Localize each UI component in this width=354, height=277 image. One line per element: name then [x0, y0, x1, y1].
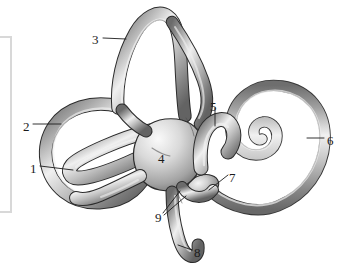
label-8: 8 — [194, 246, 201, 259]
inner-ear-figure: 1 2 3 4 5 6 7 8 9 — [0, 0, 354, 277]
label-9: 9 — [155, 211, 162, 224]
label-3: 3 — [92, 33, 99, 46]
ampulla-upper-right — [200, 120, 234, 168]
label-6: 6 — [327, 134, 334, 147]
bony-labyrinth-illustration — [0, 0, 354, 277]
label-1: 1 — [30, 162, 37, 175]
leader-line-3 — [103, 38, 126, 39]
label-7: 7 — [229, 171, 236, 184]
label-4: 4 — [158, 152, 165, 165]
label-5: 5 — [210, 100, 217, 113]
label-2: 2 — [23, 120, 30, 133]
